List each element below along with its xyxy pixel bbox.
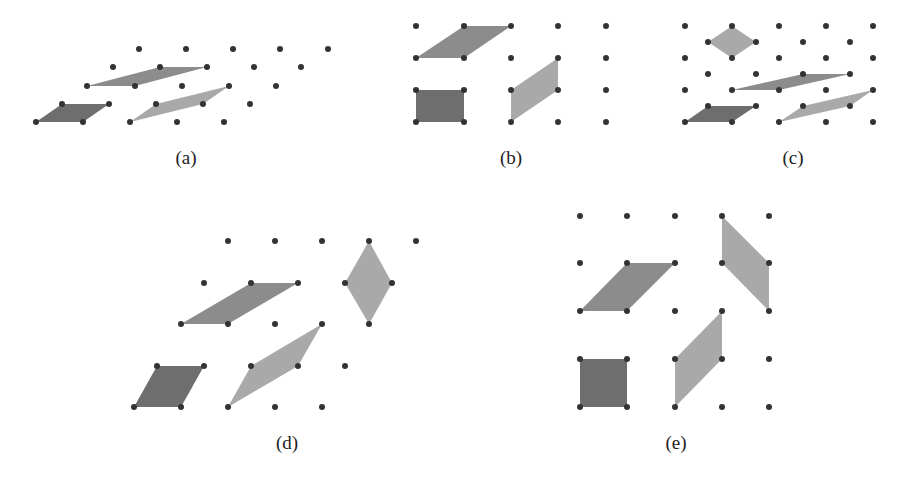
lattice-point [823, 23, 829, 29]
lattice-point [201, 280, 207, 286]
lattice-point [719, 308, 725, 314]
lattice-point [461, 23, 467, 29]
lattice-point [603, 87, 609, 93]
lattice-point [800, 71, 806, 77]
lattice-point [672, 404, 678, 410]
unit-cell [36, 104, 109, 122]
lattice-figure: (a) (b) (c) (d) (e) [0, 0, 908, 479]
lattice-point [277, 46, 283, 52]
unit-cells [685, 26, 873, 122]
lattice-point [225, 404, 231, 410]
lattice-point [342, 280, 348, 286]
lattice-point [705, 103, 711, 109]
lattice-point [705, 71, 711, 77]
lattice-point [823, 55, 829, 61]
lattice-point [729, 55, 735, 61]
lattice-point [766, 260, 772, 266]
lattice-point [295, 363, 301, 369]
lattice-point [508, 119, 514, 125]
unit-cell [87, 67, 207, 86]
lattice-point [682, 55, 688, 61]
lattice-point [672, 308, 678, 314]
panel-d: (d) [131, 238, 419, 454]
lattice-point [672, 260, 678, 266]
lattice-point [33, 119, 39, 125]
lattice-point [753, 39, 759, 45]
unit-cell [675, 311, 722, 407]
lattice-point [272, 238, 278, 244]
lattice-point [366, 238, 372, 244]
lattice-point [776, 87, 782, 93]
lattice-point [729, 119, 735, 125]
lattice-point [766, 213, 772, 219]
lattice-point [776, 55, 782, 61]
lattice-point [174, 119, 180, 125]
lattice-point [319, 321, 325, 327]
lattice-point [80, 119, 86, 125]
lattice-point [682, 23, 688, 29]
lattice-point [106, 101, 112, 107]
lattice-point [870, 55, 876, 61]
panel-c: (c) [682, 23, 876, 169]
lattice-point [603, 23, 609, 29]
lattice-point [273, 83, 279, 89]
unit-cell [511, 58, 558, 122]
unit-cell [228, 324, 322, 407]
panel-e: (e) [577, 213, 772, 454]
lattice-point [157, 64, 163, 70]
lattice-point [461, 119, 467, 125]
lattice-point [84, 83, 90, 89]
lattice-point [59, 101, 65, 107]
lattice-point [225, 238, 231, 244]
lattice-point [325, 46, 331, 52]
lattice-point [136, 46, 142, 52]
lattice-point [776, 23, 782, 29]
lattice-point [153, 101, 159, 107]
lattice-point [204, 64, 210, 70]
lattice-point [729, 87, 735, 93]
lattice-point [555, 119, 561, 125]
lattice-point [847, 39, 853, 45]
lattice-point [461, 55, 467, 61]
lattice-point [248, 363, 254, 369]
lattice-point [413, 23, 419, 29]
lattice-point [776, 119, 782, 125]
lattice-point [178, 321, 184, 327]
lattice-point [823, 87, 829, 93]
unit-cells [416, 26, 558, 122]
unit-cells [36, 67, 229, 122]
lattice-point [766, 308, 772, 314]
lattice-point [847, 103, 853, 109]
lattice-point [672, 213, 678, 219]
lattice-point [295, 280, 301, 286]
unit-cell [685, 106, 756, 122]
unit-cell [416, 90, 464, 122]
lattice-point [179, 83, 185, 89]
lattice-point [719, 404, 725, 410]
lattice-point [251, 64, 257, 70]
lattice-point [719, 260, 725, 266]
lattice-point [389, 280, 395, 286]
lattice-point [110, 64, 116, 70]
lattice-point [555, 55, 561, 61]
unit-cell [134, 366, 204, 407]
lattice-point [624, 308, 630, 314]
lattice-point [342, 363, 348, 369]
unit-cell [580, 263, 675, 311]
lattice-point [183, 46, 189, 52]
lattice-point [230, 46, 236, 52]
lattice-point [603, 55, 609, 61]
lattice-point [753, 71, 759, 77]
lattice-point [603, 119, 609, 125]
unit-cell [181, 283, 298, 324]
lattice-point [766, 356, 772, 362]
lattice-point [298, 64, 304, 70]
lattice-point [682, 119, 688, 125]
unit-cell [345, 241, 392, 324]
lattice-point [672, 356, 678, 362]
lattice-point [555, 87, 561, 93]
panel-label-e: (e) [665, 432, 686, 454]
lattice-point [766, 404, 772, 410]
lattice-point [131, 404, 137, 410]
lattice-point [413, 55, 419, 61]
